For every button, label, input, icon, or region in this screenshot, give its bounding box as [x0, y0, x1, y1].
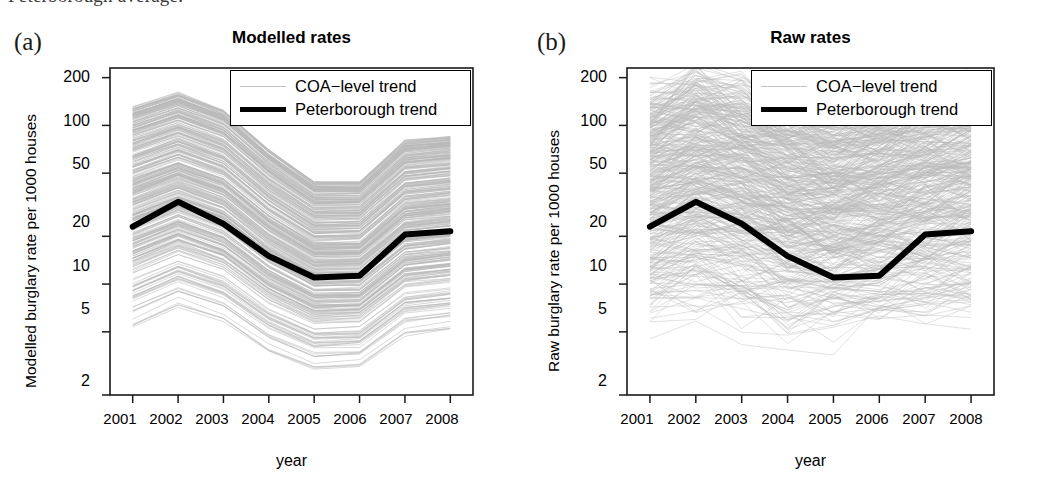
legend-line-coa-icon	[761, 86, 807, 87]
legend-label-coa-modelled: COA−level trend	[295, 77, 417, 96]
legend-label-peterborough-modelled: Peterborough trend	[295, 100, 437, 119]
legend-label-peterborough-raw: Peterborough trend	[816, 100, 958, 119]
coa-level-trend-lines-modelled	[133, 92, 451, 369]
legend-item-peterborough-raw: Peterborough trend	[761, 100, 958, 119]
legend-item-peterborough-modelled: Peterborough trend	[240, 100, 437, 119]
legend-item-coa-raw: COA−level trend	[761, 77, 938, 96]
panel-modelled-rates: (a) Modelled rates Modelled burglary rat…	[0, 0, 522, 484]
legend-item-coa-modelled: COA−level trend	[240, 77, 417, 96]
panel-raw-rates: (b) Raw rates Raw burglary rate per 1000…	[523, 0, 1045, 484]
legend-label-coa-raw: COA−level trend	[816, 77, 938, 96]
legend-raw: COA−level trend Peterborough trend	[751, 70, 992, 126]
legend-line-peterborough-icon	[761, 107, 807, 112]
legend-modelled: COA−level trend Peterborough trend	[230, 70, 471, 126]
legend-line-peterborough-icon	[240, 107, 286, 112]
legend-line-coa-icon	[240, 86, 286, 87]
figure-burglary-rates: (a) Modelled rates Modelled burglary rat…	[0, 0, 1045, 484]
